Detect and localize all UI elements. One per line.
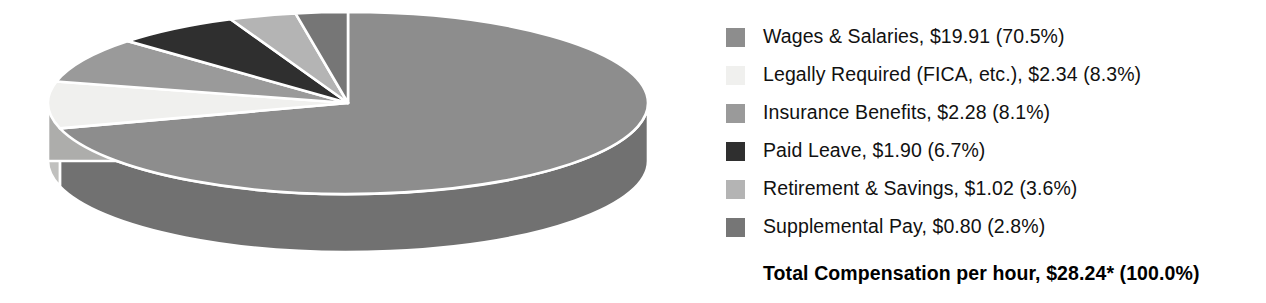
legend-item-retirement-savings[interactable]: Retirement & Savings, $1.02 (3.6%) [726, 170, 1266, 208]
legend-swatch-icon [726, 104, 745, 123]
pie-svg [0, 0, 700, 303]
chart-legend: Wages & Salaries, $19.91 (70.5%) Legally… [726, 18, 1266, 285]
legend-item-paid-leave[interactable]: Paid Leave, $1.90 (6.7%) [726, 132, 1266, 170]
legend-swatch-icon [726, 28, 745, 47]
legend-item-supplemental-pay[interactable]: Supplemental Pay, $0.80 (2.8%) [726, 208, 1266, 246]
legend-item-insurance-benefits[interactable]: Insurance Benefits, $2.28 (8.1%) [726, 94, 1266, 132]
legend-item-legally-required[interactable]: Legally Required (FICA, etc.), $2.34 (8.… [726, 56, 1266, 94]
pie-chart-graphic [0, 0, 700, 303]
pie-chart-figure: Wages & Salaries, $19.91 (70.5%) Legally… [0, 0, 1266, 303]
legend-item-label: Wages & Salaries, $19.91 (70.5%) [763, 27, 1065, 47]
legend-item-label: Supplemental Pay, $0.80 (2.8%) [763, 217, 1045, 237]
legend-item-label: Paid Leave, $1.90 (6.7%) [763, 141, 985, 161]
legend-item-label: Legally Required (FICA, etc.), $2.34 (8.… [763, 65, 1141, 85]
legend-swatch-icon [726, 218, 745, 237]
legend-swatch-icon [726, 142, 745, 161]
legend-item-wages-salaries[interactable]: Wages & Salaries, $19.91 (70.5%) [726, 18, 1266, 56]
legend-swatch-icon [726, 180, 745, 199]
legend-item-label: Insurance Benefits, $2.28 (8.1%) [763, 103, 1050, 123]
legend-item-label: Retirement & Savings, $1.02 (3.6%) [763, 179, 1077, 199]
legend-swatch-icon [726, 66, 745, 85]
legend-total-label: Total Compensation per hour, $28.24* (10… [726, 262, 1266, 285]
